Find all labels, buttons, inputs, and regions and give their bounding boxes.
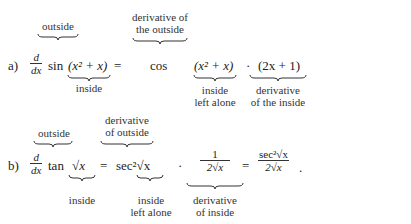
inside-expr-b: √x <box>72 158 85 174</box>
brace-outside-a <box>37 33 79 41</box>
brace-derivative-of-outside-a <box>132 37 188 45</box>
equals-a: = <box>114 58 121 74</box>
brace-inside-b <box>68 174 96 182</box>
func-sin: sin <box>48 58 63 74</box>
deriv-num-a: d <box>32 51 40 63</box>
label-derivative-of-inside-b-1: derivative <box>182 194 248 206</box>
label-inside-a: inside <box>67 82 111 94</box>
label-outside-b: outside <box>32 127 76 139</box>
deriv-den-b: dx <box>30 164 42 176</box>
label-inside-left-alone-a-2: left alone <box>190 96 240 108</box>
equals2-b: = <box>242 158 249 174</box>
period-b: . <box>299 160 302 176</box>
dot-a: · <box>246 58 250 74</box>
label-derivative-of-outside-b-2: of outside <box>98 126 156 138</box>
inner-derivative-expr-a: (2x + 1) <box>258 58 300 74</box>
brace-outside-b <box>33 140 73 148</box>
result-den-b: 2√x <box>264 161 282 173</box>
brace-inside-a <box>67 74 111 82</box>
func-tan: tan <box>48 158 64 174</box>
label-derivative-of-inside-a-2: of the inside <box>245 96 311 108</box>
derivative-operator-b: d dx <box>30 151 42 176</box>
part-b-label: b) <box>8 158 19 174</box>
label-derivative-of-inside-a-1: derivative <box>245 84 311 96</box>
inner-derivative-num-b: 1 <box>211 148 219 160</box>
inside-expr-a: (x² + x) <box>68 58 107 74</box>
outer-derivative-b: sec²√x <box>116 158 150 174</box>
brace-derivative-of-outside-b <box>100 140 154 148</box>
result-num-b: sec²√x <box>258 148 289 160</box>
label-inside-left-alone-a-1: inside <box>190 84 240 96</box>
label-derivative-of-inside-b-2: of inside <box>182 206 248 218</box>
inside-left-alone-expr-a: (x² + x) <box>194 58 233 74</box>
derivative-operator-a: d dx <box>30 51 42 76</box>
brace-inside-left-alone-a <box>193 74 237 82</box>
brace-inside-left-alone-b <box>136 174 164 182</box>
deriv-num-b: d <box>32 151 40 163</box>
brace-derivative-of-inside-a <box>249 74 307 82</box>
result-b: sec²√x 2√x <box>258 148 289 173</box>
label-outside-a: outside <box>36 20 80 32</box>
dot-b: · <box>178 158 182 174</box>
equals-b: = <box>100 158 107 174</box>
brace-derivative-of-inside-b <box>186 182 244 190</box>
deriv-den-a: dx <box>30 64 42 76</box>
outer-derivative-a: cos <box>150 58 167 74</box>
label-inside-left-alone-b-2: left alone <box>126 206 176 218</box>
label-derivative-of-outside-a-2: the outside <box>128 23 192 35</box>
inner-derivative-den-b: 2√x <box>206 161 224 173</box>
label-inside-left-alone-b-1: inside <box>126 194 176 206</box>
label-inside-b: inside <box>62 194 102 206</box>
label-derivative-of-outside-a-1: derivative of <box>128 11 192 23</box>
inner-derivative-b: 1 2√x <box>200 148 230 173</box>
part-a-label: a) <box>8 58 18 74</box>
label-derivative-of-outside-b-1: derivative <box>98 114 156 126</box>
